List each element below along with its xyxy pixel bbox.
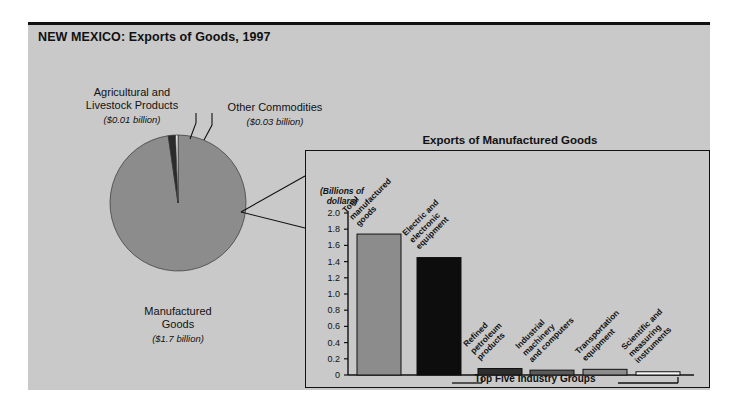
leader-line-1 [204, 113, 212, 140]
callout-wedge [241, 176, 305, 228]
bar-4 [583, 369, 627, 375]
y-tick-label-10: 2.0 [314, 208, 340, 218]
y-tick-label-3: 0.6 [314, 321, 340, 331]
bar-2 [478, 369, 522, 375]
bar-3 [530, 370, 574, 375]
y-tick-label-4: 0.8 [314, 305, 340, 315]
y-tick-label-9: 1.8 [314, 224, 340, 234]
leader-lines [190, 113, 212, 140]
callout-line-bottom [241, 212, 305, 228]
bar-0 [357, 234, 401, 375]
y-tick-label-7: 1.4 [314, 257, 340, 267]
bar-5 [636, 372, 680, 375]
bar-1 [417, 258, 461, 375]
y-tick-label-2: 0.4 [314, 338, 340, 348]
leader-line-0 [190, 113, 196, 139]
y-tick-label-6: 1.2 [314, 273, 340, 283]
y-tick-label-0: 0 [314, 370, 340, 380]
y-tick-label-1: 0.2 [314, 354, 340, 364]
callout-line-top [241, 176, 305, 212]
y-tick-label-5: 1.0 [314, 289, 340, 299]
x-axis-bracket [452, 377, 678, 383]
figure-root: NEW MEXICO: Exports of Goods, 1997 Agric… [0, 0, 734, 417]
y-tick-label-8: 1.6 [314, 240, 340, 250]
pie-chart [110, 135, 246, 271]
